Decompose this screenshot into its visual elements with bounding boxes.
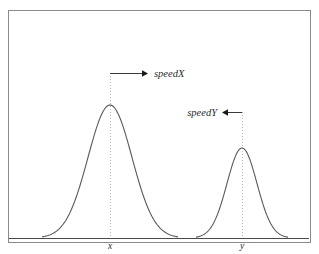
speedx-label: speedX: [154, 68, 185, 79]
figure-container: speedX speedY x y: [0, 0, 319, 254]
tick-label-x: x: [107, 241, 113, 251]
tick-label-y: y: [239, 241, 245, 251]
plot-frame: [9, 11, 311, 243]
plot-svg: speedX speedY x y: [0, 0, 319, 254]
speedy-label: speedY: [187, 107, 218, 118]
